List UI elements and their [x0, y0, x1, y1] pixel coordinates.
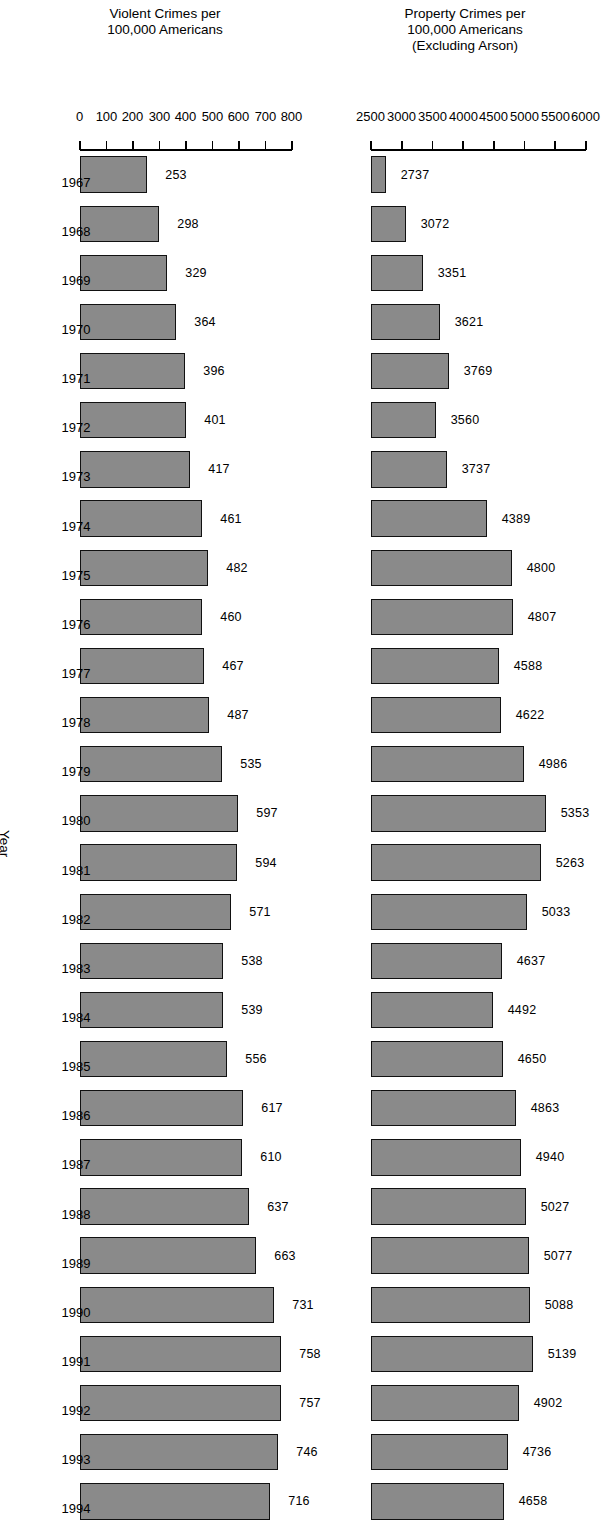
bar — [80, 500, 202, 536]
year-tick: 1985 — [20, 1035, 78, 1084]
bar-slot: 3560 — [371, 396, 586, 445]
violent-y-axis-ticks: 0100200300400500600700800 — [80, 20, 292, 150]
bar — [80, 894, 231, 930]
bar — [371, 894, 527, 930]
bar — [371, 599, 513, 635]
bar — [80, 1385, 281, 1421]
bar — [80, 1434, 278, 1470]
property-bar-series: 2737307233513621376935603737438948004807… — [371, 150, 586, 1526]
bar-value-label: 5353 — [561, 806, 590, 820]
bar — [80, 402, 186, 438]
bar — [80, 1237, 256, 1273]
bar — [80, 599, 202, 635]
year-tick-label: 1985 — [62, 1059, 91, 1074]
bar-slot: 617 — [80, 1084, 292, 1133]
bar — [80, 697, 209, 733]
bar — [371, 304, 440, 340]
bar-slot: 4650 — [371, 1035, 586, 1084]
year-tick-label: 1970 — [62, 322, 91, 337]
bar-slot: 5353 — [371, 789, 586, 838]
year-tick-label: 1981 — [62, 863, 91, 878]
bar — [371, 1336, 533, 1372]
bar — [371, 451, 447, 487]
bar-slot: 5139 — [371, 1329, 586, 1378]
bar-value-label: 417 — [209, 462, 230, 476]
bar-value-label: 4800 — [527, 561, 556, 575]
year-tick: 1986 — [20, 1084, 78, 1133]
bar-slot: 467 — [80, 641, 292, 690]
property-crimes-chart: 25003000350040004500500055006000 Propert… — [298, 0, 596, 1534]
bar-slot: 3621 — [371, 297, 586, 346]
year-axis-labels: 1967196819691970197119721973197419751976… — [20, 150, 78, 1526]
bar — [371, 1188, 526, 1224]
bar — [371, 795, 546, 831]
year-tick: 1980 — [20, 789, 78, 838]
bar-slot: 594 — [80, 838, 292, 887]
bar-value-label: 5033 — [541, 905, 570, 919]
y-axis-label-line: 100,000 Americans — [350, 22, 580, 38]
bar-value-label: 487 — [227, 708, 248, 722]
bar-slot: 746 — [80, 1428, 292, 1477]
bar — [80, 550, 208, 586]
bar — [80, 1139, 242, 1175]
year-tick: 1992 — [20, 1379, 78, 1428]
bar-slot: 3769 — [371, 347, 586, 396]
bar-value-label: 617 — [262, 1101, 283, 1115]
year-tick: 1979 — [20, 740, 78, 789]
bar-slot: 364 — [80, 297, 292, 346]
bar-value-label: 556 — [246, 1052, 267, 1066]
bar — [371, 1385, 519, 1421]
bar-value-label: 460 — [220, 610, 241, 624]
bar — [80, 943, 223, 979]
year-tick-label: 1979 — [62, 764, 91, 779]
bar — [371, 746, 524, 782]
bar-value-label: 4863 — [531, 1101, 560, 1115]
bar-slot: 4902 — [371, 1379, 586, 1428]
bar-value-label: 4650 — [518, 1052, 547, 1066]
bar — [80, 992, 223, 1028]
bar-value-label: 538 — [241, 954, 262, 968]
y-axis-label-line: (Excluding Arson) — [350, 38, 580, 54]
year-tick: 1967 — [20, 150, 78, 199]
year-tick: 1983 — [20, 936, 78, 985]
bar-value-label: 364 — [195, 315, 216, 329]
bar-slot: 4807 — [371, 592, 586, 641]
bar-value-label: 4492 — [508, 1003, 537, 1017]
bar — [371, 353, 449, 389]
bar-slot: 2737 — [371, 150, 586, 199]
bar-value-label: 4736 — [523, 1445, 552, 1459]
year-tick: 1990 — [20, 1280, 78, 1329]
bar-slot: 4637 — [371, 936, 586, 985]
bar-slot: 757 — [80, 1379, 292, 1428]
bar-slot: 539 — [80, 985, 292, 1034]
bar-value-label: 396 — [203, 364, 224, 378]
bar-value-label: 467 — [222, 659, 243, 673]
year-tick-label: 1967 — [62, 175, 91, 190]
bar-value-label: 401 — [205, 413, 226, 427]
bar-value-label: 4940 — [536, 1150, 565, 1164]
bar — [371, 1139, 521, 1175]
bar-value-label: 5263 — [555, 856, 584, 870]
violent-crimes-chart: 0100200300400500600700800 Violent Crimes… — [0, 0, 298, 1534]
year-tick: 1982 — [20, 887, 78, 936]
bar-slot: 4940 — [371, 1133, 586, 1182]
bar-value-label: 4389 — [502, 512, 531, 526]
bar — [80, 304, 176, 340]
bar-slot: 5077 — [371, 1231, 586, 1280]
bar-slot: 4588 — [371, 641, 586, 690]
bar — [80, 1287, 274, 1323]
bar-value-label: 4658 — [518, 1494, 547, 1508]
year-tick: 1971 — [20, 347, 78, 396]
bar — [80, 206, 159, 242]
bar-value-label: 610 — [260, 1150, 281, 1164]
bar-value-label: 757 — [299, 1396, 320, 1410]
y-axis-label-line: 100,000 Americans — [60, 22, 270, 38]
bar — [80, 1090, 244, 1126]
bar — [371, 255, 423, 291]
bar — [371, 156, 386, 192]
bar-slot: 4800 — [371, 543, 586, 592]
year-tick-label: 1978 — [62, 715, 91, 730]
bar — [80, 353, 185, 389]
year-tick-label: 1986 — [62, 1108, 91, 1123]
